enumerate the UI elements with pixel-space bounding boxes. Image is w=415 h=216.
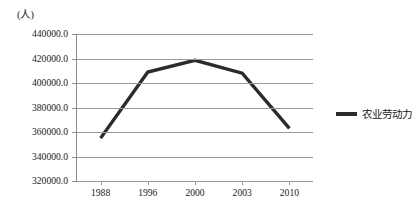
y-axis-tick-label: 380000.0 xyxy=(4,102,68,113)
x-axis-tick xyxy=(195,181,196,185)
y-axis-tick xyxy=(72,59,77,60)
y-axis-tick-label-group: 440000.0420000.0400000.0380000.0360000.0… xyxy=(4,0,68,216)
y-axis-tick xyxy=(72,34,77,35)
y-axis-tick xyxy=(72,157,77,158)
y-axis-tick xyxy=(72,108,77,109)
plot-area xyxy=(77,34,313,181)
y-axis-tick-label: 320000.0 xyxy=(4,175,68,186)
gridline xyxy=(77,108,313,109)
gridline xyxy=(77,157,313,158)
legend-line-swatch xyxy=(336,112,357,116)
series-line-agricultural-labor xyxy=(101,60,290,138)
y-axis-tick-label: 420000.0 xyxy=(4,53,68,64)
gridline xyxy=(77,59,313,60)
y-axis-tick-label: 400000.0 xyxy=(4,77,68,88)
legend-label-agricultural-labor: 农业劳动力 xyxy=(362,106,412,121)
x-axis-tick xyxy=(242,181,243,185)
x-axis-tick-label: 2000 xyxy=(175,187,215,198)
x-axis-tick-label: 2010 xyxy=(269,187,309,198)
y-axis-tick xyxy=(72,83,77,84)
x-axis-tick xyxy=(101,181,102,185)
x-axis-tick-label: 1988 xyxy=(81,187,121,198)
y-axis-tick-label: 340000.0 xyxy=(4,151,68,162)
y-axis-tick-label: 440000.0 xyxy=(4,28,68,39)
chart-page: (人) 440000.0420000.0400000.0380000.03600… xyxy=(0,0,415,216)
y-axis-tick xyxy=(72,132,77,133)
x-axis-tick-label: 2003 xyxy=(222,187,262,198)
x-axis-tick xyxy=(289,181,290,185)
y-axis-tick xyxy=(72,181,77,182)
gridline xyxy=(77,132,313,133)
gridline xyxy=(77,34,313,35)
y-axis-tick-label: 360000.0 xyxy=(4,126,68,137)
gridline xyxy=(77,83,313,84)
x-axis-tick xyxy=(148,181,149,185)
x-axis-tick-label: 1996 xyxy=(128,187,168,198)
legend: 农业劳动力 xyxy=(336,106,412,121)
